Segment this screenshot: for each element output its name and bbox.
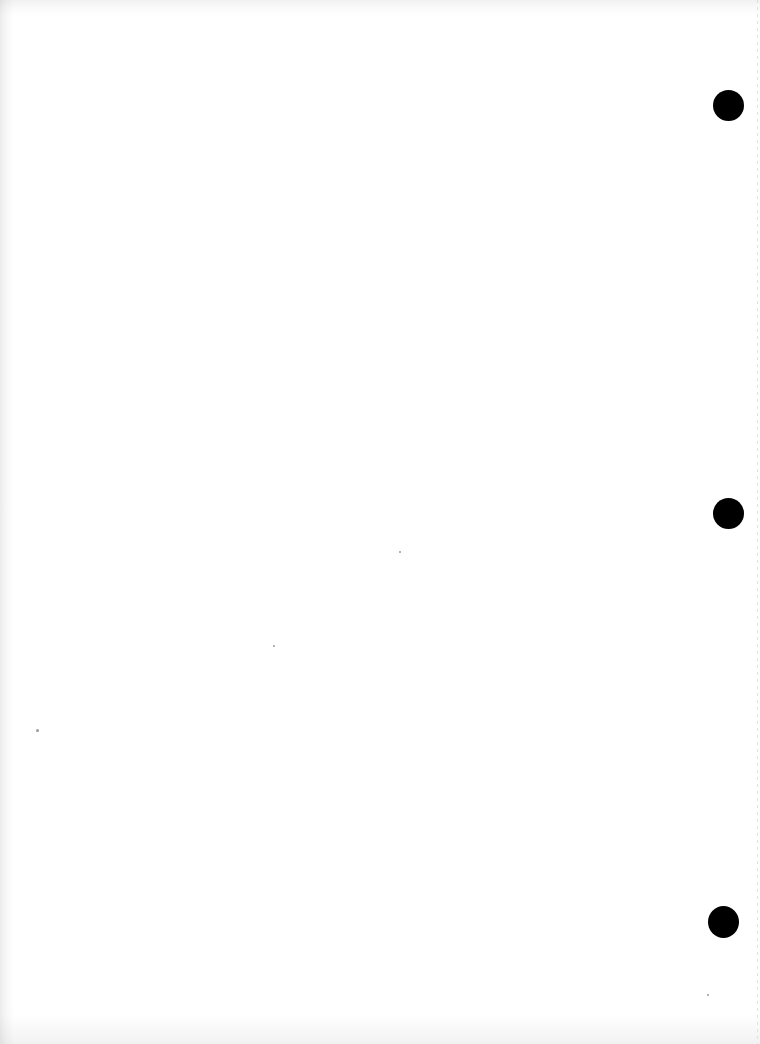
page-right-edge (757, 0, 758, 1044)
punch-hole-bottom (708, 906, 739, 938)
scan-speck (399, 551, 401, 553)
scan-speck (707, 994, 709, 996)
scan-speck (36, 729, 39, 732)
punch-hole-middle (713, 498, 744, 529)
scanned-page (0, 0, 760, 1044)
scan-speck (273, 645, 275, 647)
punch-hole-top (713, 90, 744, 121)
